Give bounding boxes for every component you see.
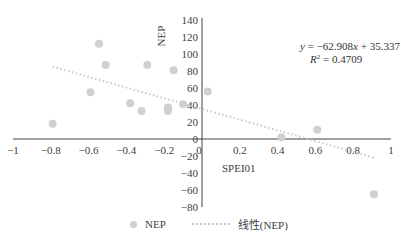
x-tick-label: −0.2 [154, 144, 174, 156]
legend: NEP 线性(NEP) [130, 216, 314, 232]
legend-item-trendline: 线性(NEP) [192, 216, 288, 232]
dotted-line-icon [192, 223, 230, 225]
data-point [95, 40, 103, 48]
x-tick-label: −0.4 [116, 144, 136, 156]
x-tick-label: −0.8 [41, 144, 61, 156]
y-tick-label: 60 [187, 82, 199, 94]
y-tick-label: −60 [181, 184, 199, 196]
data-point [204, 87, 212, 95]
x-axis-title: SPEI01 [222, 162, 256, 174]
x-tick-label: −1 [7, 144, 19, 156]
y-tick-label: 120 [182, 31, 199, 43]
legend-item-nep: NEP [130, 218, 166, 230]
y-axis-title: NEP [155, 26, 167, 47]
y-tick-label: 140 [182, 14, 199, 26]
data-point [370, 190, 378, 198]
r-squared: R2 = 0.4709 [309, 53, 363, 65]
x-tick-label: −0.6 [79, 144, 99, 156]
y-tick-label: 20 [187, 116, 199, 128]
regression-equation: y = −62.908x + 35.337 [299, 40, 400, 52]
legend-label-nep: NEP [145, 218, 166, 230]
y-tick-label: 100 [182, 48, 199, 60]
scatter-chart: −1−0.8−0.6−0.4−0.200.20.40.60.8114012010… [0, 0, 401, 242]
data-point [143, 61, 151, 69]
y-tick-label: −80 [181, 201, 199, 213]
data-point [164, 107, 172, 115]
data-point [102, 61, 110, 69]
y-tick-label: −20 [181, 150, 199, 162]
x-tick-label: 0.4 [271, 144, 285, 156]
data-point [277, 133, 285, 141]
y-tick-label: −40 [181, 167, 199, 179]
data-point [86, 88, 94, 96]
data-point [138, 107, 146, 115]
x-tick-label: 0.6 [309, 144, 323, 156]
data-point [170, 66, 178, 74]
legend-label-trendline: 线性(NEP) [238, 216, 288, 232]
y-tick-label: 0 [193, 133, 199, 145]
data-point [126, 99, 134, 107]
trendline [53, 67, 374, 158]
data-point [313, 126, 321, 134]
x-tick-label: 0.2 [233, 144, 247, 156]
x-tick-label: 0.8 [346, 144, 360, 156]
scatter-marker-icon [130, 221, 137, 228]
data-point [49, 120, 57, 128]
y-tick-label: 80 [187, 65, 199, 77]
x-tick-label: 1 [388, 144, 394, 156]
data-point [179, 100, 187, 108]
